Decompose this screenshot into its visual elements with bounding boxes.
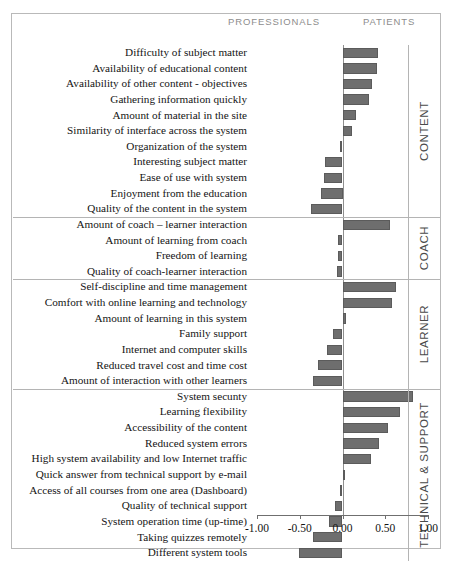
row-label: Ease of use with system: [0, 170, 247, 186]
chart-row: Accessibility of the content: [0, 420, 452, 436]
section-name-technical-support: TECHNICAL & SUPPORT: [408, 389, 440, 561]
row-label: Quality of coach-learner interaction: [0, 264, 247, 280]
section-name-label: COACH: [418, 226, 430, 271]
chart-row: Access of all courses from one area (Das…: [0, 483, 452, 499]
bar: [343, 423, 388, 433]
bar: [343, 94, 370, 104]
row-label: Amount of material in the site: [0, 108, 247, 124]
chart-row: Availability of other content - objectiv…: [0, 76, 452, 92]
row-label: Self-discipline and time management: [0, 279, 247, 295]
chart-row: Learning flexibility: [0, 404, 452, 420]
chart-row: Amount of interaction with other learner…: [0, 373, 452, 389]
row-label: Difficulty of subject matter: [0, 45, 247, 61]
bar: [321, 188, 342, 198]
chart-row: Amount of coach – learner interaction: [0, 217, 452, 233]
chart-row: Interesting subject matter: [0, 154, 452, 170]
bar: [340, 141, 343, 151]
chart-row: Availability of educational content: [0, 61, 452, 77]
chart-row: Ease of use with system: [0, 170, 452, 186]
chart-row: Freedom of learning: [0, 248, 452, 264]
row-label: Amount of learning from coach: [0, 233, 247, 249]
axis-tick-label: 1.00: [403, 522, 452, 534]
bar: [337, 266, 342, 276]
chart-row: Organization of the system: [0, 139, 452, 155]
bar: [343, 298, 393, 308]
row-label: Quick answer from technical support by e…: [0, 467, 247, 483]
bar: [318, 360, 343, 370]
chart-row: Amount of learning from coach: [0, 233, 452, 249]
row-label: Amount of learning in this system: [0, 311, 247, 327]
chart-row: System secunty: [0, 389, 452, 405]
chart-row: Different system tools: [0, 545, 452, 561]
chart-row: Quality of coach-learner interaction: [0, 264, 452, 280]
chart-row: Quick answer from technical support by e…: [0, 467, 452, 483]
row-label: System operation time (up-time): [0, 514, 247, 530]
row-label: Taking quizzes remotely: [0, 530, 247, 546]
row-label: Internet and computer skills: [0, 342, 247, 358]
row-label: Access of all courses from one area (Das…: [0, 483, 247, 499]
bar: [338, 235, 342, 245]
chart-row: Comfort with online learning and technol…: [0, 295, 452, 311]
row-label: Amount of coach – learner interaction: [0, 217, 247, 233]
axis-tick: [257, 515, 258, 519]
bar: [335, 501, 343, 511]
bar: [325, 157, 343, 167]
bar: [343, 470, 345, 480]
chart-row: Reduced travel cost and time cost: [0, 358, 452, 374]
section-name-label: LEARNER: [418, 305, 430, 364]
section-name-coach: COACH: [408, 217, 440, 280]
section-divider: [13, 389, 440, 390]
bar: [343, 407, 400, 417]
chart-row: Reduced system errors: [0, 436, 452, 452]
bar: [340, 485, 343, 495]
bar: [343, 391, 413, 401]
bar: [343, 79, 372, 89]
row-label: Enjoyment from the education: [0, 186, 247, 202]
chart-row: Family support: [0, 326, 452, 342]
chart-row: Enjoyment from the education: [0, 186, 452, 202]
axis-tick: [300, 515, 301, 519]
row-label: Family support: [0, 326, 247, 342]
chart-row: Quality of technical support: [0, 498, 452, 514]
section-name-label: CONTENT: [418, 101, 430, 161]
row-label: Reduced system errors: [0, 436, 247, 452]
row-label: Availability of other content - objectiv…: [0, 76, 247, 92]
row-label: Freedom of learning: [0, 248, 247, 264]
row-label: Amount of interaction with other learner…: [0, 373, 247, 389]
row-label: Accessibility of the content: [0, 420, 247, 436]
row-label: Learning flexibility: [0, 404, 247, 420]
chart-row: Amount of material in the site: [0, 108, 452, 124]
axis-tick: [385, 515, 386, 519]
chart-row: Gathering information quickly: [0, 92, 452, 108]
row-label: Availability of educational content: [0, 61, 247, 77]
row-label: Gathering information quickly: [0, 92, 247, 108]
bar: [324, 173, 343, 183]
chart-row: Similarity of interface across the syste…: [0, 123, 452, 139]
bar: [343, 63, 377, 73]
bar: [343, 282, 397, 292]
bar: [343, 454, 371, 464]
section-divider: [13, 217, 440, 218]
bar: [338, 251, 342, 261]
axis-tick: [343, 515, 344, 519]
row-label: Quality of technical support: [0, 498, 247, 514]
bar: [313, 376, 342, 386]
chart-row: Internet and computer skills: [0, 342, 452, 358]
section-name-learner: LEARNER: [408, 279, 440, 388]
row-label: Interesting subject matter: [0, 154, 247, 170]
bar: [311, 204, 343, 214]
bar: [299, 548, 343, 558]
chart-row: Self-discipline and time management: [0, 279, 452, 295]
chart-row: High system availability and low Interne…: [0, 451, 452, 467]
chart-row: Difficulty of subject matter: [0, 45, 452, 61]
row-label: Reduced travel cost and time cost: [0, 358, 247, 374]
row-label: Similarity of interface across the syste…: [0, 123, 247, 139]
bar: [343, 313, 346, 323]
bar: [343, 110, 357, 120]
row-label: Comfort with online learning and technol…: [0, 295, 247, 311]
bar: [343, 126, 352, 136]
bar: [327, 345, 342, 355]
row-label: Organization of the system: [0, 139, 247, 155]
bar: [333, 329, 342, 339]
bar: [343, 220, 391, 230]
